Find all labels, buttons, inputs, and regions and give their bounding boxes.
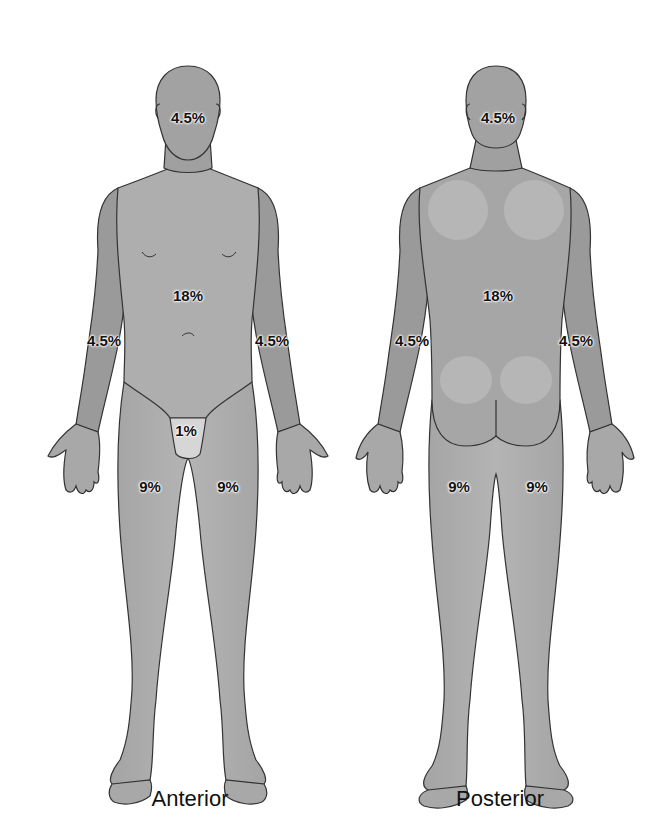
anterior-left-foot xyxy=(225,780,267,804)
posterior-left-arm-percent: 4.5% xyxy=(395,332,429,349)
anterior-left-leg-percent: 9% xyxy=(217,478,239,495)
anterior-trunk-percent: 18% xyxy=(173,287,203,304)
anterior-left-hand xyxy=(277,424,329,493)
posterior-head xyxy=(466,66,526,148)
anterior-left-arm-percent: 4.5% xyxy=(255,332,289,349)
anterior-right-leg-percent: 9% xyxy=(139,478,161,495)
posterior-label: Posterior xyxy=(456,786,544,812)
posterior-left-leg-percent: 9% xyxy=(448,478,470,495)
rule-of-nines-diagram: 4.5% 18% 4.5% 4.5% 1% 9% 9% 4.5% 18% 4.5… xyxy=(0,0,664,823)
anterior-right-arm-percent: 4.5% xyxy=(87,332,121,349)
posterior-left-hand xyxy=(356,424,403,493)
posterior-head-percent: 4.5% xyxy=(481,109,515,126)
posterior-right-arm-percent: 4.5% xyxy=(559,332,593,349)
anterior-right-foot xyxy=(109,780,151,804)
anterior-label: Anterior xyxy=(151,786,228,812)
posterior-right-hand xyxy=(587,424,634,493)
posterior-trunk-percent: 18% xyxy=(483,287,513,304)
posterior-figure xyxy=(356,66,634,808)
anterior-head-percent: 4.5% xyxy=(171,109,205,126)
anterior-genitals-percent: 1% xyxy=(175,422,197,439)
posterior-right-leg-percent: 9% xyxy=(526,478,548,495)
anterior-right-hand xyxy=(48,424,100,493)
posterior-legs xyxy=(424,400,569,793)
